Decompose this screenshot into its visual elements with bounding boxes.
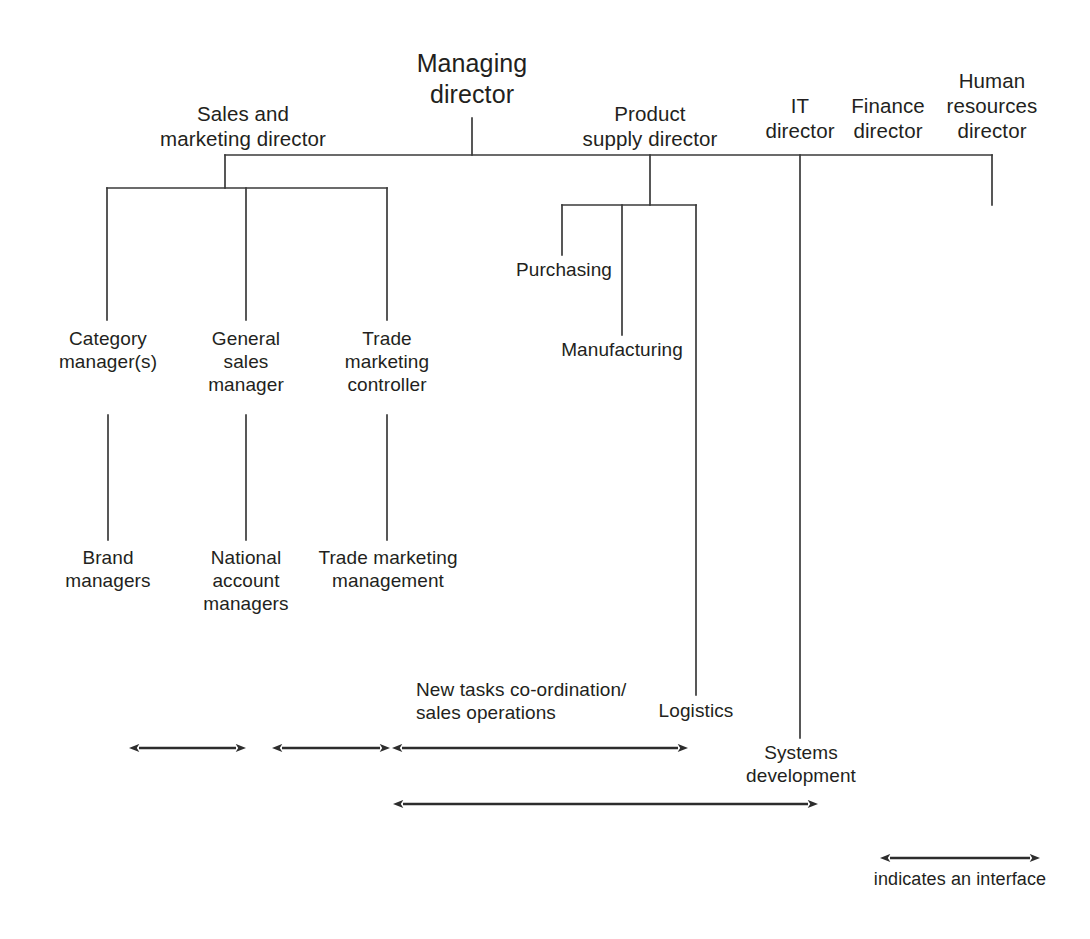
legend-caption: indicates an interface bbox=[870, 869, 1050, 891]
node-human-resources-director: Human resources director bbox=[932, 68, 1052, 143]
node-it-director: IT director bbox=[750, 93, 850, 143]
node-trade-marketing-controller: Trade marketing controller bbox=[317, 327, 457, 397]
node-managing-director: Managing director bbox=[372, 48, 572, 109]
node-new-tasks-coordination: New tasks co-ordination/ sales operation… bbox=[416, 678, 716, 724]
node-product-supply-director: Product supply director bbox=[562, 101, 738, 151]
node-brand-managers: Brand managers bbox=[33, 546, 183, 592]
node-sales-and-marketing-director: Sales and marketing director bbox=[143, 101, 343, 151]
node-finance-director: Finance director bbox=[838, 93, 938, 143]
hierarchy-lines bbox=[107, 118, 992, 738]
node-category-manager: Category manager(s) bbox=[28, 327, 188, 373]
node-trade-marketing-management: Trade marketing management bbox=[300, 546, 476, 592]
node-purchasing: Purchasing bbox=[502, 258, 626, 281]
node-systems-development: Systems development bbox=[730, 741, 872, 787]
interface-arrows bbox=[139, 748, 1030, 858]
node-general-sales-manager: General sales manager bbox=[176, 327, 316, 397]
org-chart-diagram: Managing director Sales and marketing di… bbox=[0, 0, 1090, 939]
node-national-account-managers: National account managers bbox=[176, 546, 316, 616]
node-manufacturing: Manufacturing bbox=[548, 338, 696, 361]
